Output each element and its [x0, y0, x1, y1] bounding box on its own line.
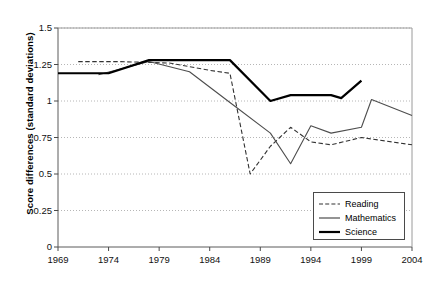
gridlines — [58, 28, 412, 211]
legend-label-mathematics: Mathematics — [345, 213, 396, 223]
x-tick-label: 1989 — [250, 254, 271, 265]
series-line-reading — [78, 62, 412, 174]
line-chart: Score differences (standard deviations) … — [0, 0, 435, 284]
x-tick-label: 1999 — [351, 254, 372, 265]
legend-item-mathematics: Mathematics — [319, 211, 399, 224]
series-line-mathematics — [98, 62, 412, 164]
y-tick-label: 0.75 — [34, 132, 53, 143]
legend-label-science: Science — [345, 227, 377, 237]
x-tick-label: 1974 — [98, 254, 119, 265]
x-tick-label: 1969 — [47, 254, 68, 265]
x-tick-label: 1984 — [199, 254, 220, 265]
x-tick-label: 1979 — [149, 254, 170, 265]
y-tick-label: 1.25 — [34, 59, 53, 70]
thick-solid-line-key — [319, 227, 340, 237]
legend-label-reading: Reading — [345, 199, 379, 209]
x-tick-label: 1994 — [300, 254, 321, 265]
thin-solid-line-key — [319, 213, 340, 223]
series-line-science — [58, 60, 361, 101]
legend-item-science: Science — [319, 225, 399, 238]
dashed-line-key — [319, 199, 340, 209]
legend-item-reading: Reading — [319, 197, 399, 210]
data-series — [58, 60, 412, 174]
legend: Reading Mathematics Science — [313, 192, 405, 240]
x-tick-label: 2004 — [401, 254, 422, 265]
y-tick-label: 1 — [47, 95, 52, 106]
y-tick-label: 0.5 — [39, 168, 52, 179]
y-tick-label: 0.25 — [34, 205, 53, 216]
plot-area — [0, 0, 435, 284]
y-tick-label: 0 — [47, 241, 52, 252]
y-tick-label: 1.5 — [39, 22, 52, 33]
